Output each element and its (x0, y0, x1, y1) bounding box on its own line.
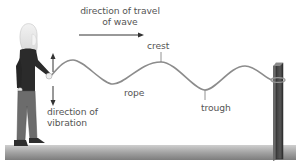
vibration-label-line2: vibration (47, 117, 98, 128)
vibration-arrow-down-icon (51, 86, 56, 106)
crest-label: crest (147, 40, 169, 51)
trough-label: trough (201, 102, 231, 113)
travel-label: direction of travel of wave (70, 5, 170, 27)
travel-label-line1: direction of travel (70, 5, 170, 16)
ground (5, 145, 296, 160)
vibration-arrow-up-icon (51, 53, 56, 72)
travel-label-line2: of wave (70, 16, 170, 27)
wave-diagram: direction of travel of wave crest rope t… (0, 0, 299, 162)
vibration-label: direction of vibration (47, 106, 98, 128)
vibration-label-line1: direction of (47, 106, 98, 117)
travel-arrow-icon (79, 33, 144, 38)
rope-wave (50, 60, 285, 90)
rope-label: rope (124, 87, 144, 98)
